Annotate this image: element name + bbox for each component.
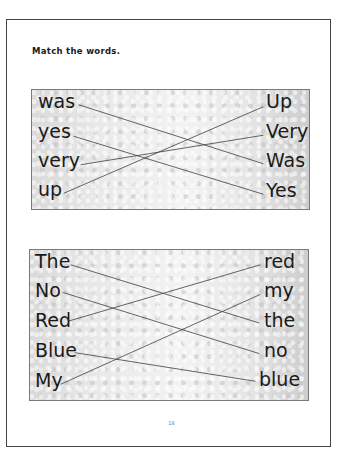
right-word[interactable]: Very	[266, 122, 308, 141]
line-up-Up	[64, 107, 264, 194]
right-word[interactable]: Was	[266, 151, 305, 170]
line-No-no	[63, 292, 260, 353]
left-word[interactable]: The	[35, 252, 70, 271]
right-word[interactable]: Yes	[266, 181, 297, 200]
page-number: 18	[0, 420, 343, 426]
right-word[interactable]: no	[264, 341, 288, 360]
line-was-Was	[79, 105, 264, 164]
line-yes-Yes	[74, 136, 264, 194]
right-word[interactable]: red	[264, 252, 295, 271]
right-word[interactable]: blue	[259, 370, 300, 389]
match-exercise-2: The No Red Blue My red my the no blue	[29, 249, 309, 401]
left-word[interactable]: Blue	[35, 341, 77, 360]
right-word[interactable]: my	[264, 281, 294, 300]
left-word[interactable]: No	[35, 281, 61, 300]
line-very-Very	[81, 135, 264, 165]
instruction-heading: Match the words.	[32, 46, 120, 56]
line-My-my	[61, 294, 261, 384]
line-The-the	[71, 265, 260, 323]
line-Red-red	[69, 265, 261, 321]
left-word[interactable]: My	[35, 371, 63, 390]
right-word[interactable]: the	[264, 311, 295, 330]
line-Blue-blue	[75, 353, 256, 382]
left-word[interactable]: was	[38, 92, 75, 111]
left-word[interactable]: up	[38, 180, 62, 199]
right-word[interactable]: Up	[266, 92, 292, 111]
left-word[interactable]: yes	[38, 122, 71, 141]
left-word[interactable]: very	[38, 151, 80, 170]
left-word[interactable]: Red	[35, 311, 71, 330]
match-exercise-1: was yes very up Up Very Was Yes	[31, 89, 310, 210]
